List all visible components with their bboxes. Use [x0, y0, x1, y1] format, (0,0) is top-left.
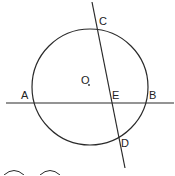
label-a: A	[21, 89, 29, 101]
partial-arc-left	[4, 171, 24, 176]
label-e: E	[112, 89, 119, 101]
label-b: B	[149, 89, 156, 101]
partial-arc-right	[40, 171, 60, 176]
label-c: C	[99, 15, 107, 27]
circle-o	[32, 29, 148, 145]
geometry-diagram: C O A E B D	[0, 0, 175, 175]
label-d: D	[121, 137, 129, 149]
label-o: O	[81, 74, 90, 86]
